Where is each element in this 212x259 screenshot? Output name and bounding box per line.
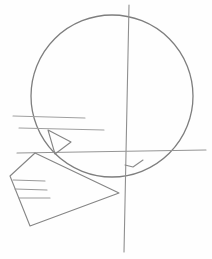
head-construction-sketch <box>0 0 212 259</box>
mouth-line-1 <box>13 180 45 181</box>
mouth-line-2 <box>15 189 47 190</box>
sketch-canvas: Pencil construction sketch of a head in … <box>0 0 212 259</box>
vertical-guide-line <box>124 5 129 252</box>
horizontal-guide-line-3 <box>17 150 206 153</box>
horizontal-guide-line-2 <box>19 128 104 130</box>
horizontal-guide-line-1 <box>13 116 85 118</box>
ear-mark <box>125 160 143 167</box>
